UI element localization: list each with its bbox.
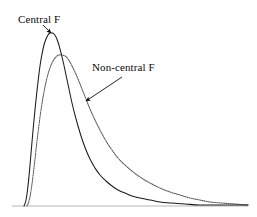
non-central-f-arrow [86,77,122,101]
central-f-label: Central F [18,13,60,25]
curve-central-f [24,33,248,206]
central-f-arrow [43,25,51,33]
curve-non-central-f [27,55,248,206]
distribution-plot [0,0,257,217]
non-central-f-label: Non-central F [92,61,155,73]
figure-container: Central F Non-central F [0,0,257,217]
